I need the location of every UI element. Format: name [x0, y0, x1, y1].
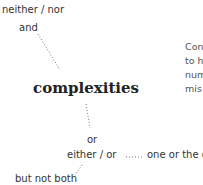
description-paragraph: Con to h num mis [185, 40, 203, 96]
node-or: or [87, 134, 97, 146]
paragraph-line: to h [185, 54, 203, 68]
node-either-or: either / or [67, 149, 116, 161]
connector-complexities-or [86, 104, 90, 128]
center-title: complexities [33, 79, 139, 97]
node-neither-nor: neither / nor [2, 4, 64, 16]
node-and: and [19, 22, 38, 34]
node-one-or-the-other: one or the o [147, 149, 203, 161]
paragraph-line: num [185, 68, 203, 82]
connector-and-complexities [38, 34, 60, 70]
paragraph-line: Con [185, 40, 203, 54]
node-but-not-both: but not both [15, 173, 77, 185]
paragraph-line: mis [185, 82, 203, 96]
